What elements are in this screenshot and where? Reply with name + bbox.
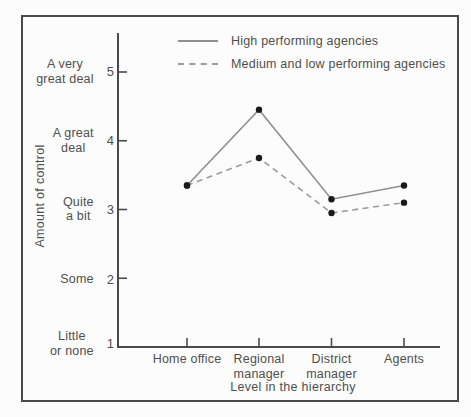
x-tick-home-office: Home office: [153, 352, 222, 367]
y-tick-label: A very great deal: [36, 57, 94, 87]
y-tick-2: Some 2: [28, 271, 114, 286]
y-tick-label: Quite a bit: [63, 195, 94, 225]
y-tick-value: 4: [107, 134, 114, 149]
x-tick-agents: Agents: [384, 352, 424, 367]
y-tick-1: Little or none 1: [28, 329, 114, 359]
y-tick-value: 1: [107, 337, 114, 352]
legend-label: High performing agencies: [231, 34, 378, 48]
legend: High performing agencies Medium and low …: [178, 34, 446, 71]
y-tick-value: 3: [107, 202, 114, 217]
y-tick-4: A great deal 4: [28, 126, 114, 156]
y-tick-label: Little or none: [50, 329, 94, 359]
figure: Amount of control High performing agenci…: [0, 0, 471, 417]
y-tick-value: 2: [107, 271, 114, 286]
y-tick-3: Quite a bit 3: [28, 195, 114, 225]
solid-line-sample-icon: [178, 40, 218, 42]
legend-label: Medium and low performing agencies: [231, 57, 446, 71]
legend-item-medium-low-performing: Medium and low performing agencies: [178, 57, 446, 71]
dashed-line-sample-icon: [178, 63, 218, 65]
y-tick-label: A great deal: [53, 126, 94, 156]
x-tick-district-manager: District manager: [306, 352, 357, 382]
y-tick-5: A very great deal 5: [28, 57, 114, 87]
legend-item-high-performing: High performing agencies: [178, 34, 446, 48]
y-tick-label: Some: [60, 271, 93, 286]
x-tick-regional-manager: Regional manager: [234, 352, 285, 382]
x-axis-title: Level in the hierarchy: [230, 380, 355, 394]
y-tick-value: 5: [107, 65, 114, 80]
